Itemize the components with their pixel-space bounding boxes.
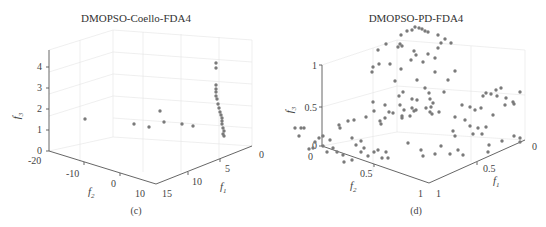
data-point: [338, 126, 341, 129]
y-tick-label: 10: [135, 188, 145, 199]
data-point: [417, 26, 420, 29]
data-point: [214, 94, 217, 97]
x-axis-label: f1: [220, 180, 227, 195]
data-point: [421, 154, 424, 157]
data-point: [499, 86, 502, 89]
data-point: [384, 150, 387, 153]
data-point: [214, 90, 217, 93]
data-point: [428, 97, 431, 100]
data-point: [406, 141, 409, 144]
data-point: [412, 49, 415, 52]
data-point: [408, 114, 411, 117]
chart-c-canvas: DMOPSO-Coello-FDA4 4 3 2 1 0 -20 -10 0 1…: [0, 0, 273, 227]
data-point: [218, 110, 221, 113]
data-point: [446, 78, 449, 81]
chart-c-points: [83, 61, 225, 137]
data-point: [376, 48, 379, 51]
data-point: [453, 115, 456, 118]
x-axis-label: f1: [493, 174, 500, 189]
svg-text:f3: f3: [10, 112, 25, 119]
data-point: [439, 144, 442, 147]
data-point: [293, 126, 296, 129]
data-point: [350, 136, 353, 139]
data-point: [512, 134, 515, 137]
data-point: [214, 61, 217, 64]
data-point: [471, 132, 474, 135]
data-point: [410, 28, 413, 31]
data-point: [424, 106, 427, 109]
data-point: [328, 138, 331, 141]
data-point: [453, 134, 456, 137]
data-point: [383, 116, 386, 119]
x-tick-label: 15: [162, 188, 172, 199]
data-point: [180, 122, 183, 125]
data-point: [448, 152, 451, 155]
data-point: [325, 150, 328, 153]
data-point: [400, 44, 403, 47]
data-point: [359, 139, 362, 142]
data-point: [388, 62, 391, 65]
data-point: [423, 29, 426, 32]
data-point: [337, 123, 340, 126]
data-point: [378, 119, 381, 122]
data-point: [147, 125, 150, 128]
y-tick-label: -20: [28, 155, 41, 166]
chart-d-title: DMOPSO-PD-FDA4: [369, 12, 464, 24]
data-point: [302, 126, 305, 129]
chart-d-grid: [322, 40, 525, 172]
data-point: [352, 118, 355, 121]
data-point: [222, 134, 225, 137]
data-point: [481, 94, 484, 97]
data-point: [307, 147, 310, 150]
y-axis-label: f2: [350, 179, 357, 194]
data-point: [433, 56, 436, 59]
data-point: [419, 148, 422, 151]
data-point: [191, 124, 194, 127]
data-point: [518, 90, 521, 93]
data-point: [354, 143, 357, 146]
data-point: [410, 106, 413, 109]
data-point: [453, 69, 456, 72]
data-point: [220, 119, 223, 122]
data-point: [433, 70, 436, 73]
data-point: [346, 119, 349, 122]
z-tick-label: 1: [312, 60, 317, 71]
data-point: [461, 153, 464, 156]
data-point: [379, 122, 382, 125]
z-tick-label: 2: [37, 103, 42, 114]
data-point: [433, 152, 436, 155]
data-point: [396, 45, 399, 48]
data-point: [384, 42, 387, 45]
z-axis-label: f3: [283, 106, 298, 113]
data-point: [371, 100, 374, 103]
svg-text:f3: f3: [283, 106, 298, 113]
data-point: [414, 53, 417, 56]
data-point: [439, 41, 442, 44]
data-point: [317, 136, 320, 139]
data-point: [391, 111, 394, 114]
data-point: [421, 60, 424, 63]
data-point: [341, 153, 344, 156]
data-point: [500, 139, 503, 142]
data-point: [468, 124, 471, 127]
data-point: [397, 94, 400, 97]
data-point: [372, 150, 375, 153]
data-point: [372, 109, 375, 112]
data-point: [456, 148, 459, 151]
data-point: [297, 134, 300, 137]
data-point: [413, 25, 416, 28]
data-point: [487, 143, 490, 146]
data-point: [220, 116, 223, 119]
data-point: [313, 140, 316, 143]
data-point: [220, 122, 223, 125]
data-point: [518, 136, 521, 139]
z-tick-label: 1: [37, 124, 42, 135]
data-point: [427, 91, 430, 94]
data-point: [486, 150, 489, 153]
data-point: [214, 83, 217, 86]
data-point: [399, 33, 402, 36]
data-point: [350, 158, 353, 161]
data-point: [222, 129, 225, 132]
y-tick-label: 0: [111, 178, 116, 189]
data-point: [342, 160, 345, 163]
